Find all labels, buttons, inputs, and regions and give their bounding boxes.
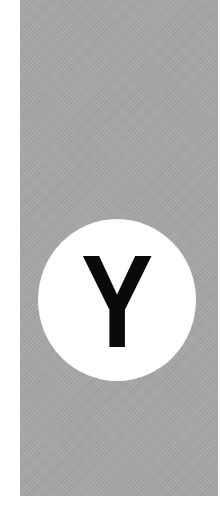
letter-badge-circle: Y [38,219,196,381]
badge-letter: Y [81,236,153,368]
